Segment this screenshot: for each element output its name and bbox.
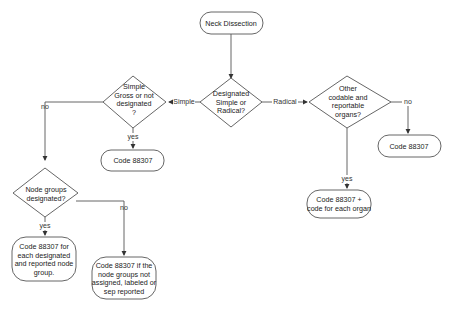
node-code-88307-not-assigned[interactable]: Code 88307 if the node groups not assign…: [92, 257, 157, 299]
edge-node-no: [76, 201, 124, 255]
node-code-88307-plus-organ[interactable]: Code 88307 + code for each organ: [307, 190, 371, 218]
edges: [45, 34, 408, 255]
decision-node-groups-designated[interactable]: Node groups designated?: [13, 168, 78, 217]
svg-text:Code 88307 +: Code 88307 +: [316, 195, 361, 204]
flowchart-canvas: Simple Radical yes no yes no yes no Neck…: [0, 0, 452, 309]
decision-other-codable-reportable-organs[interactable]: Other codable and reportable organs?: [309, 76, 391, 128]
edge-radical-no: [391, 102, 408, 133]
node-code-88307-each-node-group[interactable]: Code 88307 for each designated and repor…: [12, 237, 76, 281]
svg-text:sep reported: sep reported: [104, 287, 144, 296]
decision-simple-gross-or-not-designated[interactable]: Simple Gross or not designated ?: [103, 76, 166, 128]
edge-label-simple-yes: yes: [128, 133, 139, 141]
svg-text:Radical?: Radical?: [217, 106, 245, 115]
edge-label-node-no: no: [120, 204, 128, 211]
decision-designated-simple-or-radical[interactable]: Designated Simple or Radical?: [200, 78, 262, 127]
node-code-88307-radical[interactable]: Code 88307: [378, 135, 441, 157]
svg-text:designated?: designated?: [26, 194, 65, 203]
edge-label-radical-no: no: [404, 98, 412, 105]
node-label: Neck Dissection: [205, 19, 257, 28]
edge-label-simple-no: no: [41, 103, 49, 110]
svg-text:organs?: organs?: [335, 110, 361, 119]
edge-label-radical: Radical: [273, 98, 297, 105]
svg-text:Code 88307: Code 88307: [113, 156, 152, 165]
edge-label-simple: Simple: [173, 98, 195, 106]
svg-text:?: ?: [132, 108, 136, 117]
edge-label-node-yes: yes: [40, 222, 51, 230]
svg-text:group.: group.: [34, 268, 54, 277]
node-code-88307-simple[interactable]: Code 88307: [101, 150, 164, 171]
svg-text:code for each organ: code for each organ: [307, 204, 371, 213]
node-neck-dissection[interactable]: Neck Dissection: [200, 12, 263, 34]
edge-simple-no: [45, 102, 103, 160]
edge-label-radical-yes: yes: [342, 175, 353, 183]
svg-text:Code 88307: Code 88307: [389, 142, 428, 151]
